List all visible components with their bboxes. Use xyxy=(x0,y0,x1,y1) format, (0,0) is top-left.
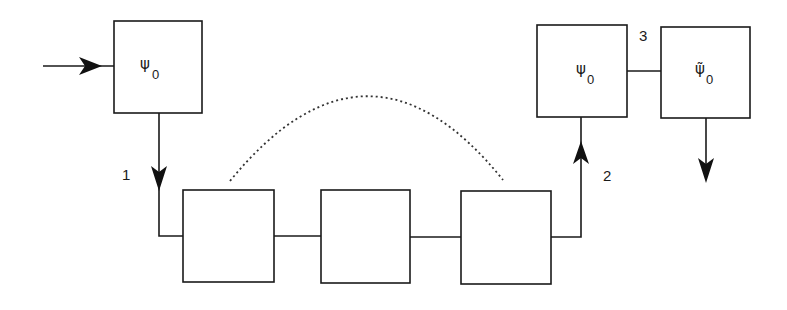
psi-subscript: 0 xyxy=(587,72,594,87)
output-arrow xyxy=(698,118,714,183)
edge-2: 2 xyxy=(551,117,611,237)
diagram-canvas: ψ 0 1 2 ψ 0 3 ψ̃ 0 xyxy=(0,0,787,310)
dotted-arc xyxy=(230,96,503,181)
edge-3: 3 xyxy=(627,27,661,71)
edge-label-2: 2 xyxy=(603,167,611,184)
box-chain-2 xyxy=(321,190,410,283)
box-output-psi0: ψ 0 xyxy=(537,25,627,117)
psi-subscript: 0 xyxy=(706,72,713,87)
box-chain-1 xyxy=(183,190,274,282)
edge-label-3: 3 xyxy=(639,27,647,44)
edge-1: 1 xyxy=(122,113,183,236)
psi-tilde-symbol: ψ̃ xyxy=(695,60,705,78)
edge-label-1: 1 xyxy=(122,166,130,183)
box-chain-3 xyxy=(461,191,551,284)
box-output-tilde-psi0: ψ̃ 0 xyxy=(661,27,750,118)
psi-subscript: 0 xyxy=(152,67,159,82)
input-arrow xyxy=(43,57,114,75)
box-input-psi0: ψ 0 xyxy=(114,21,202,113)
psi-symbol: ψ xyxy=(140,55,150,73)
psi-symbol: ψ xyxy=(576,60,586,78)
